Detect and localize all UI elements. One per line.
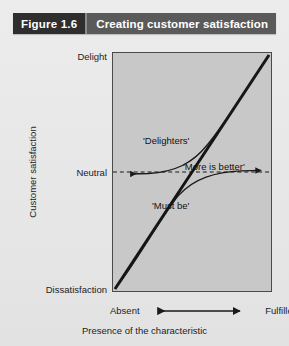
y-tick-dissatisfaction: Dissatisfaction <box>46 285 107 295</box>
annotation-more-is-better: 'More is better' <box>183 162 245 172</box>
x-axis-title: Presence of the characteristic <box>0 325 289 336</box>
annotation-delighters: 'Delighters' <box>143 136 189 146</box>
chart-curves <box>113 53 271 291</box>
x-tick-absent: Absent <box>110 305 140 316</box>
annotation-must-be: 'Must be' <box>152 201 189 211</box>
figure-header: Figure 1.6 Creating customer satisfactio… <box>13 13 276 34</box>
series-must-be <box>115 170 261 289</box>
y-axis-title: Customer satisfaction <box>27 126 38 217</box>
plot-area <box>112 52 272 292</box>
figure-title: Creating customer satisfaction <box>87 13 276 34</box>
x-tick-fulfilled: Fulfilled <box>265 305 289 316</box>
series-delighters <box>131 55 269 174</box>
x-axis-row: Absent Fulfilled <box>112 303 272 320</box>
figure-container: Figure 1.6 Creating customer satisfactio… <box>0 0 289 346</box>
y-tick-delight: Delight <box>77 52 107 62</box>
figure-number-label: Figure 1.6 <box>13 13 85 34</box>
x-axis-double-arrow-icon <box>152 303 246 319</box>
y-tick-neutral: Neutral <box>76 168 107 178</box>
